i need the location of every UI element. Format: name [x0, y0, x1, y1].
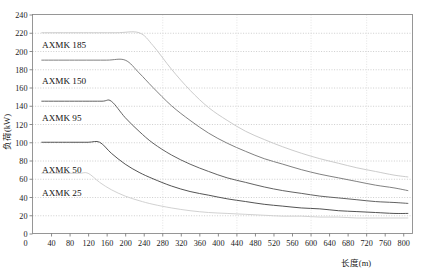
x-axis-title: 长度(m) [341, 258, 371, 268]
x-tick-label: 640 [323, 239, 335, 248]
series-label-axmk-95: AXMK 95 [42, 113, 82, 123]
x-tick-label: 440 [231, 239, 243, 248]
y-tick-label: 140 [15, 102, 27, 111]
y-tick-label: 20 [19, 212, 27, 221]
x-axis-ticks: 4080120160200240280320360400440480520560… [23, 234, 409, 248]
series-label-axmk-50: AXMK 50 [42, 165, 82, 175]
y-tick-label: 200 [15, 48, 27, 57]
series-label-axmk-185: AXMK 185 [42, 40, 87, 50]
x-tick-label: 160 [101, 239, 113, 248]
x-tick-label: 560 [286, 239, 298, 248]
x-tick-label: 760 [379, 239, 391, 248]
x-tick-label: 520 [268, 239, 280, 248]
y-tick-label: 120 [15, 121, 27, 130]
y-tick-label: 80 [19, 157, 27, 166]
x-tick-label: 400 [212, 239, 224, 248]
x-tick-label: 280 [157, 239, 169, 248]
series-label-axmk-150: AXMK 150 [42, 76, 87, 86]
series-label-axmk-25: AXMK 25 [42, 188, 82, 198]
x-origin-label: 0 [23, 239, 27, 248]
x-tick-label: 480 [249, 239, 261, 248]
x-tick-label: 360 [194, 239, 206, 248]
y-tick-label: 220 [15, 29, 27, 38]
x-tick-label: 320 [175, 239, 187, 248]
x-tick-label: 240 [138, 239, 150, 248]
x-tick-label: 680 [342, 239, 354, 248]
y-axis-title: 负荷(kW) [2, 114, 12, 150]
load-vs-length-line-chart: 020406080100120140160180200220240 408012… [0, 0, 422, 270]
y-axis-ticks: 020406080100120140160180200220240 [15, 11, 32, 239]
x-tick-label: 80 [66, 239, 74, 248]
y-tick-label: 160 [15, 84, 27, 93]
x-tick-label: 720 [361, 239, 373, 248]
y-tick-label: 100 [15, 139, 27, 148]
y-tick-label: 180 [15, 66, 27, 75]
x-tick-label: 600 [305, 239, 317, 248]
x-tick-label: 40 [47, 239, 55, 248]
y-tick-label: 60 [19, 175, 27, 184]
y-tick-label: 240 [15, 11, 27, 20]
x-tick-label: 120 [82, 239, 94, 248]
x-tick-label: 200 [120, 239, 132, 248]
y-tick-label: 40 [19, 194, 27, 203]
plot-background [33, 15, 413, 234]
x-tick-label: 800 [398, 239, 410, 248]
chart-container: 020406080100120140160180200220240 408012… [0, 0, 422, 270]
